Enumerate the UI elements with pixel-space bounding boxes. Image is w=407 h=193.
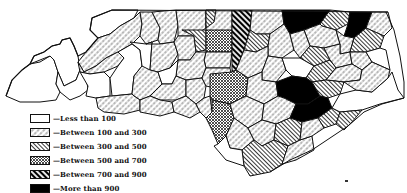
swatch-heavy-diagonal-icon bbox=[30, 170, 50, 179]
swatch-crosshatch-icon bbox=[30, 156, 50, 165]
legend-item-less-than-100: —Less than 100 bbox=[30, 112, 147, 125]
legend-item-100-300: —Between 100 and 300 bbox=[30, 126, 147, 139]
legend-item-700-900: —Between 700 and 900 bbox=[30, 168, 147, 181]
legend-label: —Between 300 and 500 bbox=[53, 142, 147, 151]
legend-label: —Between 100 and 300 bbox=[53, 128, 147, 137]
legend-item-500-700: —Between 500 and 700 bbox=[30, 154, 147, 167]
legend-label: —Between 500 and 700 bbox=[53, 156, 147, 165]
swatch-blank-icon bbox=[30, 114, 50, 123]
swatch-solid-black-icon bbox=[30, 184, 50, 193]
legend-label: —Between 700 and 900 bbox=[53, 170, 147, 179]
legend-item-more-than-900: —More than 900 bbox=[30, 182, 147, 193]
legend-label: —Less than 100 bbox=[53, 114, 116, 123]
swatch-dotted-diagonal-icon bbox=[30, 128, 50, 137]
legend: —Less than 100 —Between 100 and 300 —Bet… bbox=[30, 112, 147, 193]
legend-label: —More than 900 bbox=[53, 184, 119, 193]
print-mark bbox=[345, 180, 348, 182]
legend-item-300-500: —Between 300 and 500 bbox=[30, 140, 147, 153]
swatch-fine-diagonal-icon bbox=[30, 142, 50, 151]
